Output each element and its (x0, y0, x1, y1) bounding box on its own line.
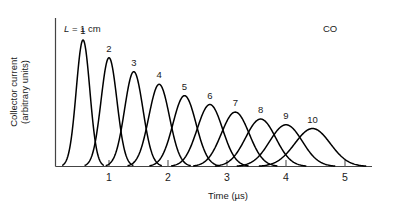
collector-current-chart: 1 2 3 4 5 Time (µs) Collector current (a… (0, 0, 393, 208)
x-axis-title: Time (µs) (208, 190, 248, 201)
peak-4-label: 4 (157, 69, 162, 80)
peak-8-label: 8 (258, 104, 263, 115)
x-tick-label-3: 3 (224, 171, 230, 183)
peak-3-label: 3 (131, 57, 136, 68)
species-annotation: CO (323, 23, 337, 34)
y-axis-title-line2: (arbitrary units) (19, 60, 30, 124)
y-axis-title-line1: Collector current (8, 57, 19, 127)
peak-10-label: 10 (307, 114, 318, 125)
peak-7-label: 7 (233, 97, 238, 108)
y-axis-title: Collector current (arbitrary units) (8, 57, 30, 127)
peak-9-label: 9 (283, 110, 288, 121)
length-annotation-value: = 1 cm (69, 23, 100, 34)
x-tick-label-2: 2 (165, 171, 171, 183)
peak-5-label: 5 (182, 81, 187, 92)
x-tick-label-1: 1 (106, 171, 112, 183)
peak-2-label: 2 (106, 43, 111, 54)
peak-6-label: 6 (207, 90, 212, 101)
x-tick-label-4: 4 (283, 171, 289, 183)
length-annotation: L = 1 cm (64, 23, 101, 34)
x-tick-label-5: 5 (342, 171, 348, 183)
